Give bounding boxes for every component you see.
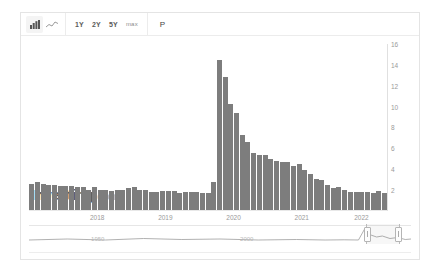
- range-button-2y[interactable]: 2Y: [89, 19, 104, 30]
- y-axis-tick-label: 4: [391, 166, 407, 173]
- x-axis-tick-label: 2020: [226, 214, 240, 221]
- range-group: 1Y 2Y 5Y max: [66, 13, 148, 36]
- bar[interactable]: [177, 193, 182, 211]
- bar[interactable]: [189, 192, 194, 211]
- bar[interactable]: [308, 174, 313, 211]
- bar[interactable]: [41, 184, 46, 211]
- bar[interactable]: [274, 161, 279, 211]
- range-button-max[interactable]: max: [123, 19, 141, 29]
- bar[interactable]: [285, 162, 290, 211]
- bar[interactable]: [314, 179, 319, 211]
- bar[interactable]: [348, 192, 353, 211]
- y-axis-tick-label: 2: [391, 187, 407, 194]
- bar[interactable]: [63, 186, 68, 211]
- print-button[interactable]: P: [154, 18, 172, 31]
- print-group: P: [148, 13, 178, 36]
- bar[interactable]: [228, 104, 233, 211]
- bar[interactable]: [69, 186, 74, 211]
- navigator-tick-labels: 19502000: [29, 236, 411, 246]
- bar[interactable]: [194, 192, 199, 211]
- navigator[interactable]: 19502000: [29, 223, 411, 253]
- x-axis-tick-label: 2021: [295, 214, 309, 221]
- plot-area: Investing.com 161412108642 2018201920202…: [21, 36, 419, 259]
- bar[interactable]: [172, 191, 177, 211]
- y-axis-tick-label: 12: [391, 82, 407, 89]
- y-axis-tick-label: 14: [391, 61, 407, 68]
- navigator-tick-label: 1950: [91, 236, 104, 242]
- bar[interactable]: [46, 185, 51, 211]
- bar[interactable]: [58, 186, 63, 211]
- bar[interactable]: [223, 77, 228, 211]
- navigator-tick-label: 2000: [240, 236, 253, 242]
- bar[interactable]: [342, 190, 347, 211]
- bar[interactable]: [81, 187, 86, 211]
- y-axis-tick-label: 8: [391, 124, 407, 131]
- x-axis-tick-label: 2022: [354, 214, 368, 221]
- bar[interactable]: [86, 190, 91, 211]
- bar[interactable]: [206, 193, 211, 211]
- bar[interactable]: [365, 192, 370, 211]
- navigator-handle-left[interactable]: [364, 227, 371, 242]
- bar[interactable]: [115, 190, 120, 211]
- bar[interactable]: [217, 60, 222, 211]
- bar[interactable]: [143, 190, 148, 211]
- navigator-window[interactable]: [366, 224, 400, 244]
- bar[interactable]: [354, 192, 359, 211]
- bar[interactable]: [297, 164, 302, 211]
- line-chart-icon[interactable]: [43, 16, 60, 33]
- x-axis-tick-label: 2019: [158, 214, 172, 221]
- bar[interactable]: [211, 182, 216, 211]
- x-axis-tick-label: 2018: [90, 214, 104, 221]
- bar-series: [29, 44, 387, 211]
- bar[interactable]: [336, 187, 341, 211]
- range-button-1y[interactable]: 1Y: [72, 19, 87, 30]
- range-button-5y[interactable]: 5Y: [106, 19, 121, 30]
- bar[interactable]: [376, 191, 381, 211]
- bar[interactable]: [92, 187, 97, 211]
- bar[interactable]: [103, 190, 108, 211]
- bar[interactable]: [183, 192, 188, 211]
- bar[interactable]: [52, 185, 57, 211]
- bar[interactable]: [126, 188, 131, 211]
- bar[interactable]: [29, 184, 34, 211]
- bar[interactable]: [132, 187, 137, 211]
- chart-toolbar: 1Y 2Y 5Y max P: [21, 13, 419, 36]
- bar[interactable]: [149, 192, 154, 211]
- bar[interactable]: [251, 153, 256, 211]
- bar[interactable]: [319, 180, 324, 211]
- bar[interactable]: [234, 113, 239, 211]
- bar[interactable]: [75, 187, 80, 211]
- chart-widget: 1Y 2Y 5Y max P Investing.com 16141210864…: [20, 12, 420, 260]
- navigator-bottom-border: [29, 252, 411, 253]
- bar[interactable]: [257, 155, 262, 211]
- bar[interactable]: [325, 185, 330, 211]
- x-axis-line: [29, 210, 388, 211]
- bar[interactable]: [291, 166, 296, 211]
- bar[interactable]: [268, 159, 273, 211]
- bar[interactable]: [154, 192, 159, 211]
- bar[interactable]: [160, 191, 165, 211]
- navigator-handle-right[interactable]: [395, 227, 402, 242]
- y-axis-labels: 161412108642: [387, 36, 407, 211]
- bar[interactable]: [240, 135, 245, 211]
- bar[interactable]: [120, 190, 125, 211]
- bar[interactable]: [98, 190, 103, 211]
- y-axis-tick-label: 10: [391, 103, 407, 110]
- y-axis-tick-label: 6: [391, 145, 407, 152]
- bar[interactable]: [166, 191, 171, 211]
- bar[interactable]: [371, 193, 376, 211]
- y-axis-tick-label: 16: [391, 41, 407, 48]
- bar[interactable]: [245, 142, 250, 211]
- bar[interactable]: [359, 192, 364, 211]
- bar[interactable]: [331, 188, 336, 211]
- bar[interactable]: [109, 191, 114, 211]
- bar[interactable]: [280, 162, 285, 211]
- bar[interactable]: [263, 155, 268, 211]
- bar-chart-icon[interactable]: [26, 16, 43, 33]
- bar[interactable]: [35, 182, 40, 211]
- bar[interactable]: [302, 170, 307, 211]
- bar[interactable]: [200, 193, 205, 211]
- chart-type-group: [21, 13, 66, 36]
- bar[interactable]: [137, 190, 142, 211]
